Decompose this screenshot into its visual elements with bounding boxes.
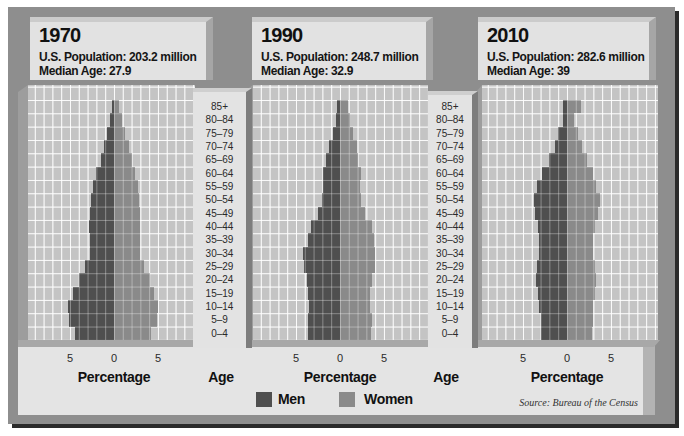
age-label: 45–49: [428, 207, 472, 220]
age-label: 5–9: [193, 313, 246, 326]
age-label: 40–44: [428, 220, 472, 233]
legend-label-women: Women: [364, 391, 413, 408]
age-label: 15–19: [193, 287, 246, 300]
age-label: 20–24: [428, 273, 472, 286]
median-age-text: Median Age: 32.9: [261, 64, 426, 78]
age-label-list: 85+80–8475–7970–7465–6960–6455–5950–5445…: [193, 100, 246, 340]
age-label: 30–34: [193, 247, 246, 260]
age-label: 70–74: [193, 140, 246, 153]
x-tick-label: 5: [60, 351, 80, 365]
chart-floor: [476, 340, 660, 347]
chart-floor: [18, 340, 195, 347]
age-label: 55–59: [193, 180, 246, 193]
age-label: 75–79: [428, 127, 472, 140]
legend-swatch-women: [339, 392, 355, 407]
age-label: 40–44: [193, 220, 246, 233]
age-label: 25–29: [193, 260, 246, 273]
age-label: 0–4: [428, 327, 472, 340]
x-tick-label: 5: [374, 351, 394, 365]
pyramid-plot-1990: [253, 85, 428, 340]
x-tick-label: 5: [286, 351, 306, 365]
age-label: 10–14: [428, 300, 472, 313]
gridlines: [28, 85, 195, 340]
age-axis-title: Age: [386, 368, 506, 386]
x-axis-title: Percentage: [54, 368, 174, 386]
age-label: 65–69: [428, 153, 472, 166]
population-text: U.S. Population: 248.7 million: [261, 50, 426, 64]
x-tick-label: 5: [148, 351, 168, 365]
age-column-2: 85+80–8475–7970–7465–6960–6455–5950–5445…: [428, 91, 478, 348]
x-tick-label: 5: [601, 351, 621, 365]
age-label: 60–64: [428, 167, 472, 180]
age-label: 85+: [193, 100, 246, 113]
age-axis-title: Age: [161, 368, 281, 386]
age-label: 80–84: [428, 113, 472, 126]
age-label: 5–9: [428, 313, 472, 326]
legend-swatch-men: [256, 392, 272, 407]
x-axis-title: Percentage: [280, 368, 400, 386]
gridlines: [482, 85, 658, 340]
age-label: 35–39: [428, 233, 472, 246]
age-column-1: 85+80–8475–7970–7465–6960–6455–5950–5445…: [193, 88, 252, 348]
age-label: 50–54: [193, 193, 246, 206]
year-title: 2010: [487, 23, 649, 47]
age-label: 25–29: [428, 260, 472, 273]
gridlines: [253, 85, 428, 340]
x-tick-label: 5: [513, 351, 533, 365]
title-box-1970: 1970 U.S. Population: 203.2 million Medi…: [30, 17, 213, 80]
age-label: 35–39: [193, 233, 246, 246]
median-age-text: Median Age: 39: [487, 64, 649, 78]
age-label: 85+: [428, 100, 472, 113]
age-label: 20–24: [193, 273, 246, 286]
legend-label-men: Men: [278, 391, 305, 408]
year-title: 1990: [261, 23, 426, 47]
age-label: 45–49: [193, 207, 246, 220]
x-axis-title: Percentage: [507, 368, 627, 386]
x-tick-label: 0: [557, 351, 577, 365]
age-label: 15–19: [428, 287, 472, 300]
pyramid-plot-2010: [482, 85, 658, 340]
population-text: U.S. Population: 282.6 million: [487, 50, 649, 64]
age-label: 80–84: [193, 113, 246, 126]
pyramid-plot-1970: [28, 85, 195, 340]
age-label: 65–69: [193, 153, 246, 166]
age-label: 30–34: [428, 247, 472, 260]
chart-floor: [243, 340, 428, 347]
population-text: U.S. Population: 203.2 million: [39, 50, 206, 64]
age-label: 0–4: [193, 327, 246, 340]
age-label: 70–74: [428, 140, 472, 153]
age-label: 55–59: [428, 180, 472, 193]
x-tick-label: 0: [330, 351, 350, 365]
year-title: 1970: [39, 23, 206, 47]
age-label: 75–79: [193, 127, 246, 140]
age-label: 50–54: [428, 193, 472, 206]
source-credit: Source: Bureau of the Census: [519, 396, 638, 410]
age-label: 10–14: [193, 300, 246, 313]
age-label-list: 85+80–8475–7970–7465–6960–6455–5950–5445…: [428, 100, 472, 340]
x-tick-label: 0: [104, 351, 124, 365]
median-age-text: Median Age: 27.9: [39, 64, 206, 78]
chart-left-wall: [18, 85, 28, 347]
title-box-2010: 2010 U.S. Population: 282.6 million Medi…: [478, 17, 656, 80]
title-box-1990: 1990 U.S. Population: 248.7 million Medi…: [252, 17, 433, 80]
age-label: 60–64: [193, 167, 246, 180]
